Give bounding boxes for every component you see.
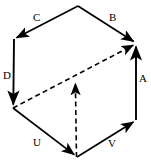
cube-vector-diagram: C B A D U V (0, 0, 151, 166)
vector-label-b: B (109, 12, 116, 23)
diagonal-dashed-line (13, 45, 133, 108)
edge-u-line (13, 108, 74, 155)
vector-label-d: D (3, 70, 11, 81)
diagram-canvas (0, 0, 151, 166)
vector-label-c: C (33, 12, 40, 23)
edge-d-line (13, 39, 14, 105)
vector-label-a: A (139, 73, 147, 84)
edge-c-line (17, 6, 79, 38)
edge-b-line (78, 6, 134, 42)
vector-label-v: V (108, 138, 116, 149)
vertical-dashed-line (75, 84, 76, 158)
edge-v-line (77, 122, 133, 157)
vector-label-u: U (33, 137, 41, 148)
